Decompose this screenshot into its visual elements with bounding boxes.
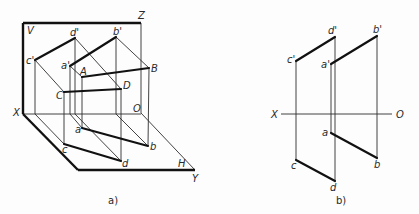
figure-a-axonometric: VZd'b'c'a'ABDCOXabcdHY a) xyxy=(12,10,199,206)
point-label: a' xyxy=(61,60,70,71)
point-label: B xyxy=(151,63,158,74)
point-label: X xyxy=(270,109,279,120)
point-label: X xyxy=(12,107,21,118)
point-label: d xyxy=(330,182,337,193)
point-label: c xyxy=(62,144,68,155)
diagram-canvas: VZd'b'c'a'ABDCOXabcdHY a) d'b'c'a'XOabcd… xyxy=(0,0,419,214)
projector-line xyxy=(35,60,64,92)
plane-outline xyxy=(23,114,78,170)
object-edge xyxy=(82,68,149,77)
point-label: a' xyxy=(321,59,330,70)
point-label: D xyxy=(123,80,131,91)
object-edge xyxy=(296,37,335,61)
figure-b-caption: b) xyxy=(336,195,346,206)
object-edge xyxy=(331,133,377,158)
point-label: b xyxy=(150,141,156,152)
object-edge xyxy=(35,38,75,60)
point-label: V xyxy=(27,25,35,36)
point-label: b' xyxy=(113,26,122,37)
object-edges xyxy=(296,36,377,181)
point-labels: d'b'c'a'XOabcd xyxy=(270,24,404,193)
projector-line xyxy=(148,68,149,146)
object-edge xyxy=(296,160,335,181)
point-label: Z xyxy=(137,10,146,21)
point-label: C xyxy=(56,90,63,101)
point-label: c xyxy=(291,160,297,171)
point-label: a xyxy=(75,124,81,135)
figure-b-orthographic: d'b'c'a'XOabcd b) xyxy=(270,24,404,206)
object-edge xyxy=(70,37,116,66)
point-label: O xyxy=(396,109,404,120)
object-edge xyxy=(64,89,121,92)
point-label: a xyxy=(322,127,328,138)
point-label: d' xyxy=(70,27,79,38)
projection-planes-outline xyxy=(23,23,195,170)
point-label: b' xyxy=(373,24,382,35)
projector-lines xyxy=(296,36,377,181)
point-label: c' xyxy=(26,55,34,66)
figure-a-caption: a) xyxy=(108,195,118,206)
point-label: d' xyxy=(328,25,337,36)
projector-line xyxy=(116,37,149,68)
object-edge xyxy=(82,128,148,146)
point-label: d xyxy=(122,158,129,169)
object-edge xyxy=(331,36,377,64)
point-label: b xyxy=(374,159,380,170)
point-label: H xyxy=(178,158,186,169)
point-labels: VZd'b'c'a'ABDCOXabcdHY xyxy=(12,10,199,184)
point-label: O xyxy=(133,103,141,114)
point-label: c' xyxy=(287,54,295,65)
point-label: A xyxy=(79,66,87,77)
point-label: Y xyxy=(192,173,199,184)
projection-planes-thin xyxy=(23,23,195,170)
